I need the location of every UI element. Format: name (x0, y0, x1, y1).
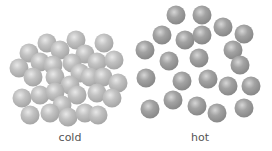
hot-particle (208, 104, 227, 123)
cold-particle (41, 104, 60, 123)
hot-particle (219, 77, 238, 96)
hot-particle (173, 72, 192, 91)
hot-particle (235, 25, 254, 44)
hot-particle (153, 26, 172, 45)
cold-particle (13, 89, 32, 108)
cold-label: cold (40, 131, 100, 144)
cold-particle (89, 106, 108, 125)
hot-particle (235, 99, 254, 118)
hot-particle (160, 52, 179, 71)
hot-particle (190, 49, 209, 68)
hot-particle (231, 56, 250, 75)
hot-particle (199, 70, 218, 89)
cold-particle (95, 34, 114, 53)
hot-particle (193, 26, 212, 45)
cold-particle (103, 89, 122, 108)
cold-particle (24, 68, 43, 87)
hot-particle (164, 91, 183, 110)
hot-particle (188, 97, 207, 116)
cold-particle (59, 108, 78, 127)
hot-particle (214, 18, 233, 37)
cold-particle (21, 106, 40, 125)
hot-particle (167, 6, 186, 25)
hot-particle (242, 77, 261, 96)
cold-particle (105, 51, 124, 70)
cold-particles (10, 31, 128, 127)
particle-diagram (0, 0, 272, 151)
hot-particle (176, 31, 195, 50)
hot-particle (141, 100, 160, 119)
hot-particle (193, 6, 212, 25)
hot-particles (136, 6, 261, 123)
hot-particle (136, 41, 155, 60)
hot-particle (137, 69, 156, 88)
hot-label: hot (170, 131, 230, 144)
